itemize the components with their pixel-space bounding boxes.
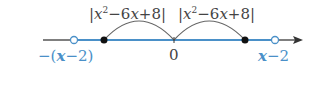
left-distance-arc [104, 21, 174, 40]
left-arc-label: |x2−6x+8| [89, 6, 166, 22]
filled-point-left [101, 37, 108, 44]
left-endpoint-label: −(x−2) [38, 49, 93, 64]
right-distance-arc [174, 21, 245, 40]
open-point-right [272, 37, 279, 44]
filled-point-right [242, 37, 249, 44]
origin-label: 0 [169, 48, 179, 63]
right-endpoint-label: x−2 [258, 49, 289, 64]
right-arc-label: |x2−6x+8| [178, 6, 255, 22]
open-point-left [71, 37, 78, 44]
